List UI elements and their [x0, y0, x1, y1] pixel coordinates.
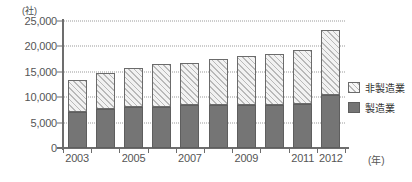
- y-tick: 0: [0, 148, 57, 149]
- legend-label: 製造業: [365, 100, 395, 115]
- x-axis-unit-label: (年): [368, 152, 385, 167]
- bar-segment-non-manufacturing: [265, 54, 284, 105]
- bar-segment-manufacturing: [265, 105, 284, 148]
- x-tick-mark: [317, 149, 318, 153]
- bar-group: [209, 21, 228, 148]
- bar-group: [68, 21, 87, 148]
- bar-segment-non-manufacturing: [293, 50, 312, 103]
- x-tick-mark: [260, 149, 261, 153]
- bar-segment-non-manufacturing: [124, 68, 143, 108]
- x-tick-label: 2007: [178, 152, 202, 164]
- bar-group: [321, 21, 340, 148]
- x-tick-label: 2011: [291, 152, 314, 164]
- bar-group: [293, 21, 312, 148]
- x-tick-mark: [289, 149, 290, 153]
- bar-segment-manufacturing: [293, 104, 312, 148]
- bar-segment-manufacturing: [124, 107, 143, 148]
- bar-segment-manufacturing: [180, 105, 199, 148]
- bar-segment-non-manufacturing: [209, 59, 228, 105]
- bar-group: [152, 21, 171, 148]
- y-tick: 10,000: [0, 97, 57, 98]
- bar-segment-manufacturing: [152, 107, 171, 148]
- x-tick-mark: [204, 149, 205, 153]
- bar-segment-non-manufacturing: [321, 30, 340, 95]
- y-tick-label: 25,000: [25, 15, 57, 27]
- bar-group: [96, 21, 115, 148]
- x-tick-mark: [176, 149, 177, 153]
- x-tick-label: 2009: [234, 152, 258, 164]
- bar-segment-non-manufacturing: [237, 56, 256, 105]
- x-tick-mark: [232, 149, 233, 153]
- bar-segment-non-manufacturing: [96, 73, 115, 109]
- legend-swatch-mfg: [348, 102, 360, 113]
- x-tick-label: 2012: [319, 152, 343, 164]
- y-tick-label: 15,000: [25, 66, 57, 78]
- y-tick-label: 20,000: [25, 40, 57, 52]
- bar-segment-manufacturing: [96, 109, 115, 148]
- bar-segment-manufacturing: [321, 95, 340, 148]
- bar-group: [265, 21, 284, 148]
- x-tick-label: 2005: [122, 152, 146, 164]
- legend-swatch-nonmfg: [348, 82, 360, 93]
- bar-segment-manufacturing: [237, 105, 256, 148]
- y-tick-label: 5,000: [30, 117, 57, 129]
- chart-figure: (社) 05,00010,00015,00020,00025,000 20032…: [0, 0, 412, 182]
- plot-area: [63, 21, 345, 148]
- legend-label: 非製造業: [365, 80, 405, 95]
- y-tick: 5,000: [0, 123, 57, 124]
- x-tick-label: 2003: [65, 152, 89, 164]
- bar-group: [237, 21, 256, 148]
- chart-legend: 非製造業製造業: [348, 80, 410, 120]
- legend-item: 製造業: [348, 100, 410, 115]
- y-tick: 20,000: [0, 46, 57, 47]
- y-tick: 15,000: [0, 72, 57, 73]
- x-tick-mark: [91, 149, 92, 153]
- x-tick-mark: [148, 149, 149, 153]
- bar-segment-non-manufacturing: [68, 80, 87, 112]
- bar-segment-non-manufacturing: [152, 64, 171, 107]
- bar-group: [180, 21, 199, 148]
- x-tick-mark: [119, 149, 120, 153]
- bar-group: [124, 21, 143, 148]
- x-tick-mark: [63, 149, 64, 153]
- y-tick: 25,000: [0, 21, 57, 22]
- bar-segment-non-manufacturing: [180, 63, 199, 106]
- y-tick-label: 10,000: [25, 91, 57, 103]
- legend-item: 非製造業: [348, 80, 410, 95]
- bar-segment-manufacturing: [209, 105, 228, 148]
- bar-segment-manufacturing: [68, 112, 87, 148]
- x-tick-mark: [345, 149, 346, 153]
